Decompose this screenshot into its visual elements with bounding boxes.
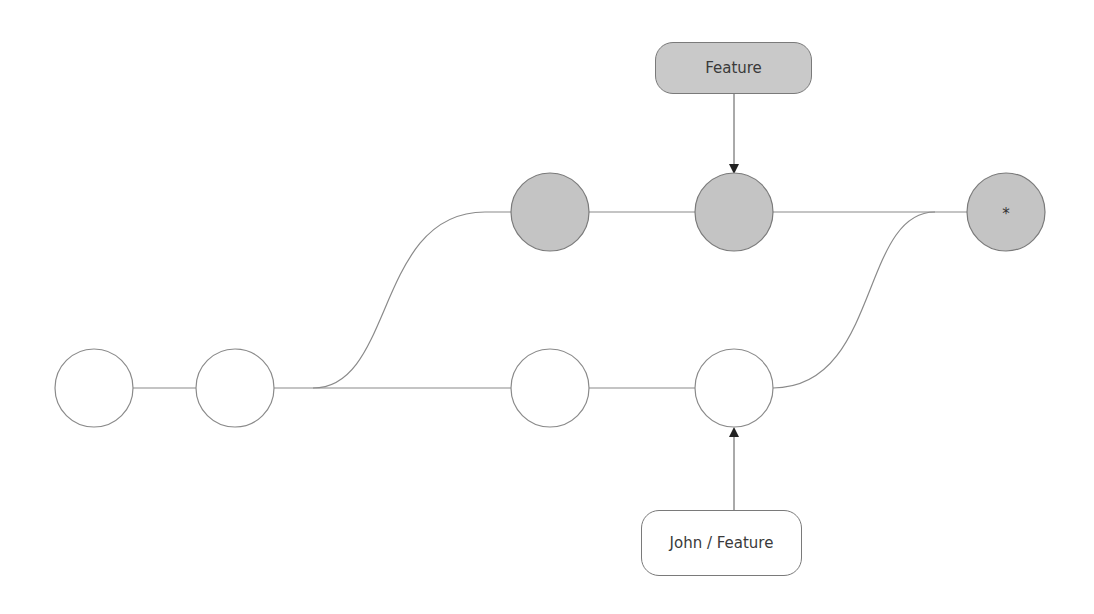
john-feature-branch-label[interactable]: John / Feature [641,510,802,576]
commit-node-john-feature[interactable] [695,349,773,427]
commit-node[interactable] [196,349,274,427]
commit-node[interactable] [511,349,589,427]
commit-node[interactable] [55,349,133,427]
feature-commit-node[interactable] [511,173,589,251]
edge-branch-to-feature [313,212,511,388]
feature-branch-label[interactable]: Feature [655,42,812,94]
edge-merge-back [773,212,935,388]
merge-node-label: * [1002,205,1010,223]
feature-commit-node-head[interactable] [695,173,773,251]
branch-graph [0,0,1094,614]
